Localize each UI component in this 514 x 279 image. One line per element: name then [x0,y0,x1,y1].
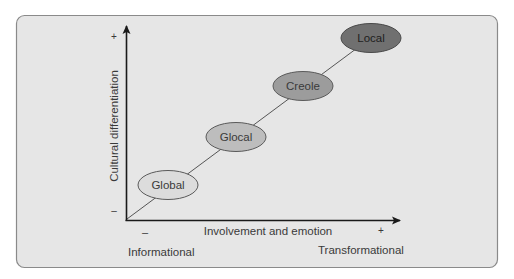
x-axis-high-end-label: Transformational [318,244,404,256]
node-local: Local [341,24,401,53]
x-axis-low-end-label: Informational [128,246,194,258]
x-axis-minus: – [142,226,149,238]
node-local-label: Local [357,32,385,44]
x-axis-plus: + [378,225,384,236]
node-glocal-label: Glocal [220,131,253,143]
diagram-canvas: + – Cultural differentiation – + Involve… [0,0,514,279]
node-glocal: Glocal [206,123,266,152]
node-global-label: Global [151,179,184,191]
node-creole-label: Creole [286,80,320,92]
y-axis-minus: – [111,205,117,216]
y-axis-plus: + [111,31,117,42]
x-axis-label: Involvement and emotion [204,225,333,237]
node-global: Global [138,171,198,200]
node-creole: Creole [273,72,333,101]
y-axis-label: Cultural differentiation [108,70,120,182]
